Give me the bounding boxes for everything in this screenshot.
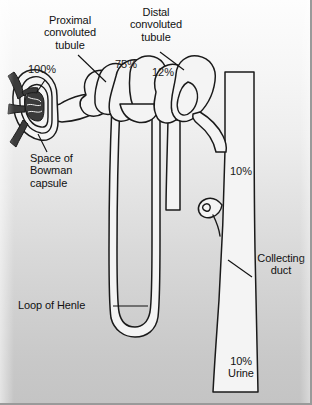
label-collecting-duct: Collecting duct (253, 252, 309, 277)
label-distal-convoluted-tubule: Distal convoluted tubule (110, 6, 202, 43)
label-loop-of-henle: Loop of Henle (18, 299, 85, 311)
label-space-of-bowman-capsule: Space of Bowman capsule (30, 152, 110, 189)
nephron-illustration: .tube { fill:#f4f4f4; stroke:#1a1a1a; st… (0, 0, 312, 405)
percent-glomerular-filtrate: 100% (28, 63, 56, 75)
nephron-diagram-figure: .tube { fill:#f4f4f4; stroke:#1a1a1a; st… (0, 0, 312, 405)
percent-collecting-duct: 10% (230, 165, 252, 177)
distal-descending-limb-shape (166, 120, 180, 210)
adjacent-nephron-connection (198, 198, 222, 236)
label-proximal-convoluted-tubule: Proximal convoluted tubule (22, 14, 118, 51)
proximal-convoluted-tubule-shape (52, 56, 167, 123)
label-urine: 10% Urine (219, 355, 263, 380)
percent-end-proximal-tubule: 75% (115, 58, 137, 70)
glomerulus-and-bowman-capsule (8, 70, 58, 147)
loop-of-henle-shape (109, 104, 160, 337)
percent-end-distal-tubule: 12% (152, 66, 174, 78)
